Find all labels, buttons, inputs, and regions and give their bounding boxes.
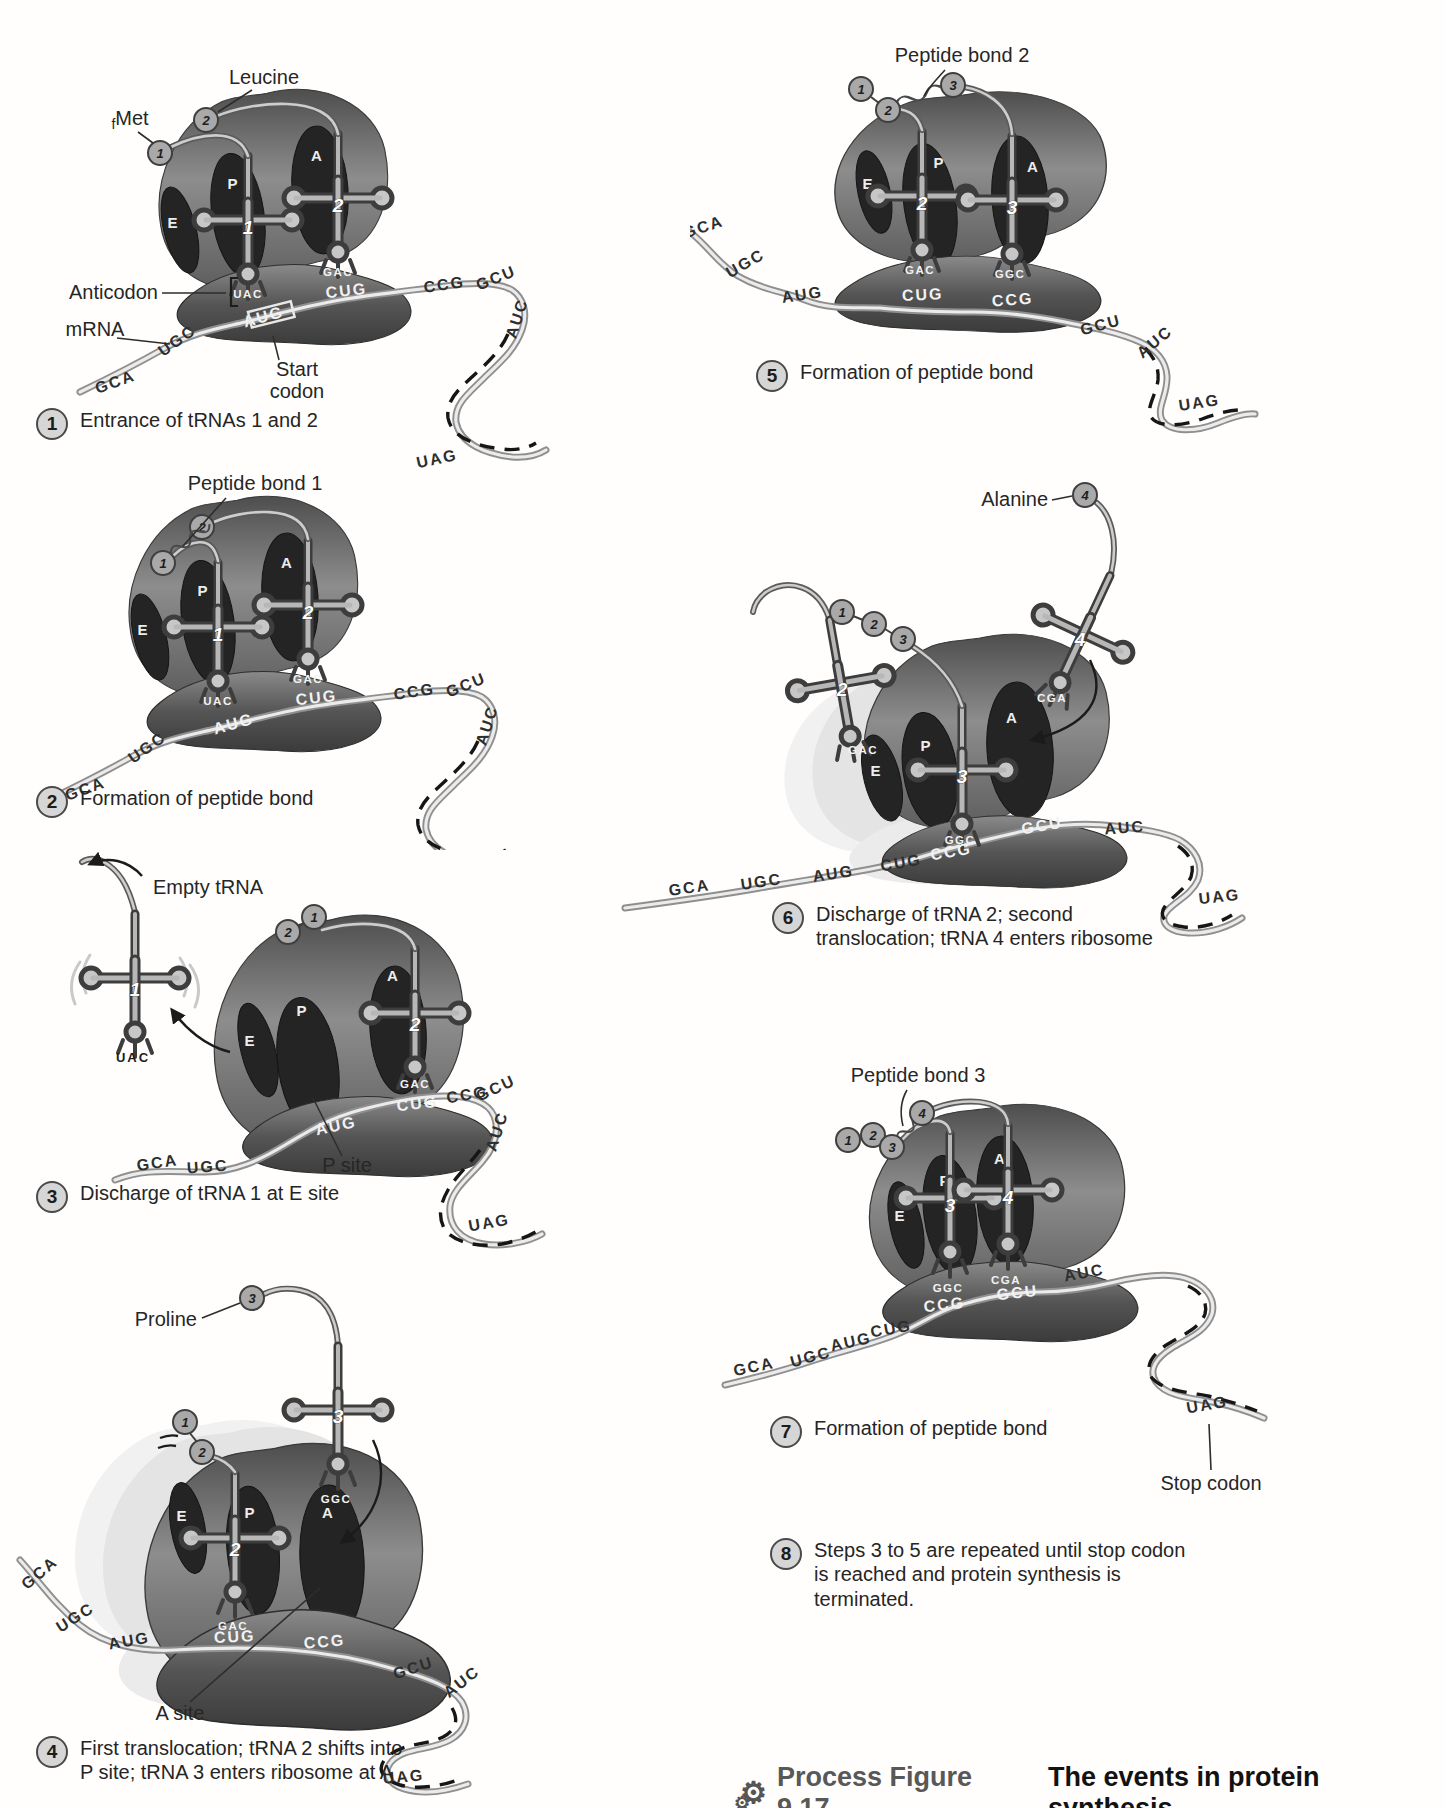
step-6-number: 6 <box>772 902 804 934</box>
codon-uag: UAG <box>1177 391 1221 414</box>
figure-caption: ⚙⚙ Process Figure 9.17 The events in pro… <box>740 1762 1446 1808</box>
amino-acid-2-number: 2 <box>201 113 210 128</box>
mrna-group <box>50 690 516 850</box>
codon-gca: GCA <box>690 212 726 241</box>
a-site-letter: A <box>1027 158 1039 175</box>
trna-3-tail-core <box>264 1289 338 1346</box>
empty-trna-label: Empty tRNA <box>153 876 264 898</box>
trna-2-number: 2 <box>836 679 848 700</box>
p-site-letter: P <box>296 1002 307 1019</box>
fmet-label: fMet <box>111 107 149 132</box>
codon-ccg: CCG <box>392 680 436 703</box>
a-site-label: A site <box>156 1702 205 1724</box>
trna-2-anticodon: GAC <box>400 1078 430 1090</box>
codon-ugc: UGC <box>723 245 767 281</box>
codon-ugc: UGC <box>739 870 783 893</box>
step-5-caption: 5 Formation of peptide bond <box>756 360 1034 392</box>
trna-3-anticodon: GGC <box>321 1493 352 1505</box>
codon-ccg: CCG <box>991 290 1034 310</box>
step-3-number: 3 <box>36 1181 68 1213</box>
trna-1-number: 1 <box>243 217 254 238</box>
trna-1-anticodon: UAC <box>203 695 232 707</box>
codon-cug: CUG <box>902 285 944 304</box>
trna-2-number: 2 <box>409 1014 421 1035</box>
amino-acid-3-number: 3 <box>248 1291 256 1306</box>
amino-acid-3-number: 3 <box>949 78 957 93</box>
trna-2-tail <box>753 585 829 618</box>
mrna-ribbon <box>50 690 516 850</box>
panel-3-discharge-of-trna-1: E P A 2 GAC 1 UAC GCA UGC AUG CUG CCG GC… <box>20 850 720 1280</box>
amino-acid-4-number: 4 <box>1080 488 1089 503</box>
trna-2-anticodon: GAC <box>848 744 878 756</box>
peptide-bond-3-label: Peptide bond 3 <box>851 1064 986 1086</box>
p-site-label: P site <box>322 1154 372 1176</box>
amino-acid-2-number: 2 <box>869 617 878 632</box>
step-8-line3: terminated. <box>814 1587 1185 1611</box>
amino-chain-link-1-2 <box>853 616 863 620</box>
p-site-letter: P <box>197 582 208 599</box>
p-site-letter: P <box>227 175 238 192</box>
trna-3-tail <box>264 1289 338 1346</box>
codon-uag: UAG <box>467 1211 511 1235</box>
e-site-letter: E <box>137 621 148 638</box>
proline-label: Proline <box>135 1308 197 1330</box>
codon-ccg: CCG <box>422 273 466 296</box>
amino-acid-1-number: 1 <box>156 146 163 161</box>
trna-1-anticodon: UAC <box>233 288 262 300</box>
trna-2-number: 2 <box>916 193 928 214</box>
amino-acid-3-number: 3 <box>899 632 907 647</box>
step-8-caption: 8 Steps 3 to 5 are repeated until stop c… <box>770 1538 1270 1611</box>
codon-auc: AUC <box>1104 818 1146 838</box>
empty-trna-tail <box>82 859 135 912</box>
empty-trna-anticodon: UAC <box>116 1050 150 1065</box>
p-site-letter: P <box>244 1504 255 1521</box>
trna-2-anticodon: GAC <box>323 266 353 278</box>
step-8-text: Steps 3 to 5 are repeated until stop cod… <box>814 1538 1185 1611</box>
figure-caption-label: Process Figure 9.17 <box>777 1762 1024 1808</box>
codon-aug: AUG <box>811 862 855 885</box>
e-site-letter: E <box>176 1507 187 1524</box>
step-4-number: 4 <box>36 1736 68 1768</box>
step-3-text: Discharge of tRNA 1 at E site <box>80 1181 339 1205</box>
codon-cug: CUG <box>869 1317 913 1341</box>
mrna-ribbon-core <box>725 1275 1264 1418</box>
trna-3-anticodon: GGC <box>995 268 1026 280</box>
step-7-caption: 7 Formation of peptide bond <box>770 1416 1048 1448</box>
trna-4-number: 4 <box>1002 1187 1014 1208</box>
step-5-number: 5 <box>756 360 788 392</box>
a-site-letter: A <box>1006 709 1018 726</box>
panel-4-first-translocation: E P A 2 GAC 3 GGC 1 2 3 Proline GCA UGC … <box>0 1270 720 1808</box>
codon-ugc: UGC <box>125 729 169 767</box>
e-site-letter: E <box>870 762 881 779</box>
codon-cug: CUG <box>214 1627 256 1646</box>
amino-acid-1-number: 1 <box>844 1133 851 1148</box>
step-4-text: First translocation; tRNA 2 shifts into … <box>80 1736 402 1785</box>
alanine-label: Alanine <box>981 488 1048 510</box>
trna-3-number: 3 <box>945 1195 956 1216</box>
p-site-letter: P <box>933 154 944 171</box>
mrna-label: mRNA <box>66 318 126 340</box>
amino-acid-1-number: 1 <box>159 556 166 571</box>
a-site-letter: A <box>387 967 399 984</box>
process-gears-icon: ⚙⚙ <box>740 1778 767 1808</box>
amino-acid-2-number: 2 <box>868 1128 877 1143</box>
start-codon-label-line1: Start <box>276 358 319 380</box>
step-8-line2: is reached and protein synthesis is <box>814 1562 1185 1586</box>
codon-ugc: UGC <box>155 322 199 360</box>
mrna-untranslated-dashes <box>418 741 506 850</box>
start-codon-label-line2: codon <box>270 380 325 402</box>
anticodon-label: Anticodon <box>69 281 158 303</box>
peptide-bond-2-label: Peptide bond 2 <box>895 44 1030 66</box>
trna-3-anticodon: GGC <box>933 1282 964 1294</box>
trna-2-anticodon: GAC <box>293 673 323 685</box>
a-site-letter: A <box>281 554 293 571</box>
leucine-label: Leucine <box>229 66 299 88</box>
trna-3-number: 3 <box>333 1406 344 1427</box>
figure-9-17-protein-synthesis: E P A 1 2 UAC GAC GCA UGC AUG CUG CCG GC… <box>0 0 1446 1808</box>
step-2-caption: 2 Formation of peptide bond <box>36 786 314 818</box>
trna-4-anticodon: CGA <box>1037 692 1067 704</box>
step-3-caption: 3 Discharge of tRNA 1 at E site <box>36 1181 339 1213</box>
trna-3-number: 3 <box>1007 197 1018 218</box>
step-1-text: Entrance of tRNAs 1 and 2 <box>80 408 318 432</box>
step-2-text: Formation of peptide bond <box>80 786 314 810</box>
